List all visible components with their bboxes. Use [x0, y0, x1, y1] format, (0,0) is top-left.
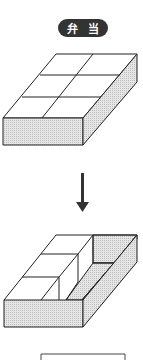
down-arrow-icon: [76, 173, 89, 212]
diagram-canvas: [0, 0, 143, 360]
partial-box-outline: [41, 354, 125, 360]
open-lunchbox: [3, 235, 137, 327]
closed-lunchbox: [3, 54, 137, 145]
block-front-diag-3: [41, 277, 59, 300]
closed-front-face: [3, 118, 83, 145]
open-front-face: [4, 300, 83, 327]
